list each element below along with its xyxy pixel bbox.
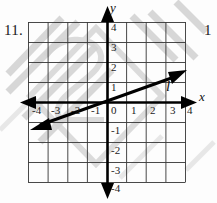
y-tick--1: -1 [111, 124, 120, 136]
x-tick-2: 2 [150, 104, 156, 116]
x-tick--4: -4 [32, 104, 42, 116]
x-tick--3: -3 [51, 104, 61, 116]
coordinate-plane: l x y -4 -3 -2 -1 0 1 2 3 4 4 3 2 1 -1 -… [0, 0, 217, 203]
y-tick-2: 2 [111, 61, 117, 73]
y-tick--3: -3 [111, 164, 121, 176]
x-tick-1: 1 [131, 104, 137, 116]
line-label-l: l [166, 78, 170, 94]
graph-figure: 11. 1 [0, 0, 217, 203]
y-tick-1: 1 [111, 81, 117, 93]
y-tick--4: -4 [111, 182, 121, 194]
y-tick-3: 3 [111, 41, 117, 53]
x-tick-4: 4 [187, 104, 193, 116]
x-tick--1: -1 [91, 104, 100, 116]
y-axis-label: y [108, 0, 116, 15]
y-tick-4: 4 [111, 21, 117, 33]
x-tick-0: 0 [111, 104, 117, 116]
x-tick-labels: -4 -3 -2 -1 0 1 2 3 4 [32, 104, 193, 116]
x-axis-label: x [198, 89, 205, 104]
y-tick--2: -2 [111, 144, 120, 156]
x-tick-3: 3 [170, 104, 176, 116]
x-tick--2: -2 [71, 104, 80, 116]
